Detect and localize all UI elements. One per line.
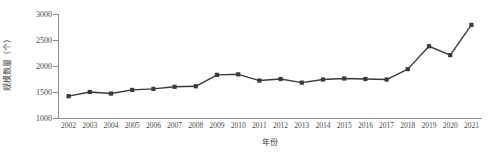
data-point [236,72,240,76]
data-point [67,94,71,98]
series-markers [67,23,474,98]
data-point [427,44,431,48]
y-tick-label: 1000 [36,114,52,123]
x-tick-label: 2003 [82,121,97,130]
series-plot [58,14,482,118]
x-tick-label: 2017 [379,121,394,130]
x-tick-label: 2006 [146,121,161,130]
y-tick-label: 2000 [36,62,52,71]
x-tick-label: 2013 [294,121,309,130]
x-tick-label: 2019 [422,121,437,130]
data-point [300,81,304,85]
x-tick-label: 2009 [210,121,225,130]
y-tick-label: 2500 [36,36,52,45]
x-tick-label: 2018 [400,121,415,130]
data-point [279,77,283,81]
x-tick-label: 2010 [231,121,246,130]
x-tick-label: 2012 [273,121,288,130]
plot-area [58,14,482,118]
x-tick-label: 2007 [167,121,182,130]
x-axis-tick-labels: 2002200320042005200620072008200920102011… [58,121,482,135]
y-tick-mark [53,66,58,67]
series-line [69,25,472,96]
data-point [88,90,92,94]
x-axis-line [58,118,482,119]
x-tick-label: 2014 [316,121,331,130]
y-tick-mark [53,92,58,93]
data-point [469,23,473,27]
line-chart: 规模数量（个） 10001500200025003000 20022003200… [0,0,492,160]
y-tick-mark [53,118,58,119]
x-tick-label: 2008 [188,121,203,130]
x-tick-label: 2002 [61,121,76,130]
data-point [363,77,367,81]
x-tick-label: 2004 [104,121,119,130]
y-tick-mark [53,40,58,41]
x-tick-label: 2005 [125,121,140,130]
x-tick-label: 2015 [337,121,352,130]
data-point [130,88,134,92]
data-point [194,84,198,88]
x-tick-label: 2011 [252,121,267,130]
data-point [109,91,113,95]
y-tick-mark [53,14,58,15]
y-tick-label: 3000 [36,10,52,19]
x-tick-label: 2020 [443,121,458,130]
x-tick-label: 2021 [464,121,479,130]
data-point [406,67,410,71]
data-point [215,73,219,77]
x-axis-title: 年份 [58,136,482,147]
data-point [257,78,261,82]
data-point [448,53,452,57]
y-tick-label: 1500 [36,88,52,97]
data-point [321,77,325,81]
data-point [151,87,155,91]
data-point [173,85,177,89]
data-point [342,76,346,80]
x-tick-label: 2016 [358,121,373,130]
data-point [385,77,389,81]
y-axis-tick-labels: 10001500200025003000 [16,0,54,160]
